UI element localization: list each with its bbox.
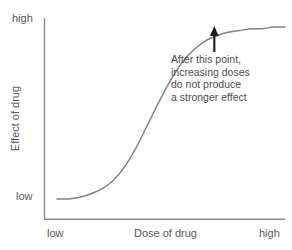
annotation-line-4: a stronger effect [171,91,250,104]
x-axis-tick-low: low [47,228,64,239]
dose-response-chart: high low low high Dose of drug Effect of… [0,0,292,250]
plateau-annotation: After this point, increasing doses do no… [171,53,250,103]
y-axis-title: Effect of drug [10,79,21,159]
annotation-line-2: increasing doses [171,66,250,79]
x-axis-tick-high: high [259,228,280,239]
y-axis-tick-low: low [16,191,33,202]
x-axis-title: Dose of drug [134,228,197,239]
plot-area [0,0,292,250]
y-axis-tick-high: high [12,13,33,24]
annotation-line-1: After this point, [171,53,250,66]
plateau-arrow-icon [210,26,219,52]
annotation-line-3: do not produce [171,78,250,91]
